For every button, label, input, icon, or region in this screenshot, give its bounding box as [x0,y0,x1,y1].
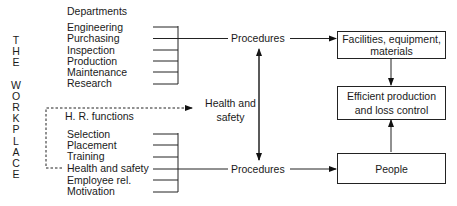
procedures-bottom: Procedures [231,164,285,175]
hr-item: Health and safety [67,163,149,174]
dept-item: Inspection [67,45,115,56]
efficient-line2: and loss control [347,104,436,116]
letter: P [11,124,21,135]
letter-gap [11,69,21,80]
dept-item: Research [67,78,112,89]
letter: E [11,57,21,68]
efficient-production-box: Efficient production and loss control [337,86,446,120]
hr-item: Training [67,151,105,162]
departments-heading: Departments [67,6,127,17]
the-workplace-label: T H E W O R K P L A C E [11,35,21,180]
health-safety-line2: safety [203,112,258,123]
people-box: People [337,153,446,184]
hr-item: Placement [67,140,117,151]
facilities-box: Facilities, equipment, materials [337,31,446,59]
facilities-line1: Facilities, equipment, [342,33,441,45]
efficient-line1: Efficient production [347,90,436,102]
health-safety-line1: Health and [203,98,258,109]
hr-item: Selection [67,129,110,140]
procedures-top: Procedures [231,33,285,44]
facilities-line2: materials [342,45,441,57]
hr-item: Motivation [67,186,115,197]
dept-item: Purchasing [67,33,120,44]
dept-item: Production [67,56,117,67]
letter: E [11,169,21,180]
people-label: People [375,163,408,175]
hr-item: Employee rel. [67,175,131,186]
health-safety-node: Health and safety [203,98,258,123]
hr-heading: H. R. functions [65,111,134,122]
